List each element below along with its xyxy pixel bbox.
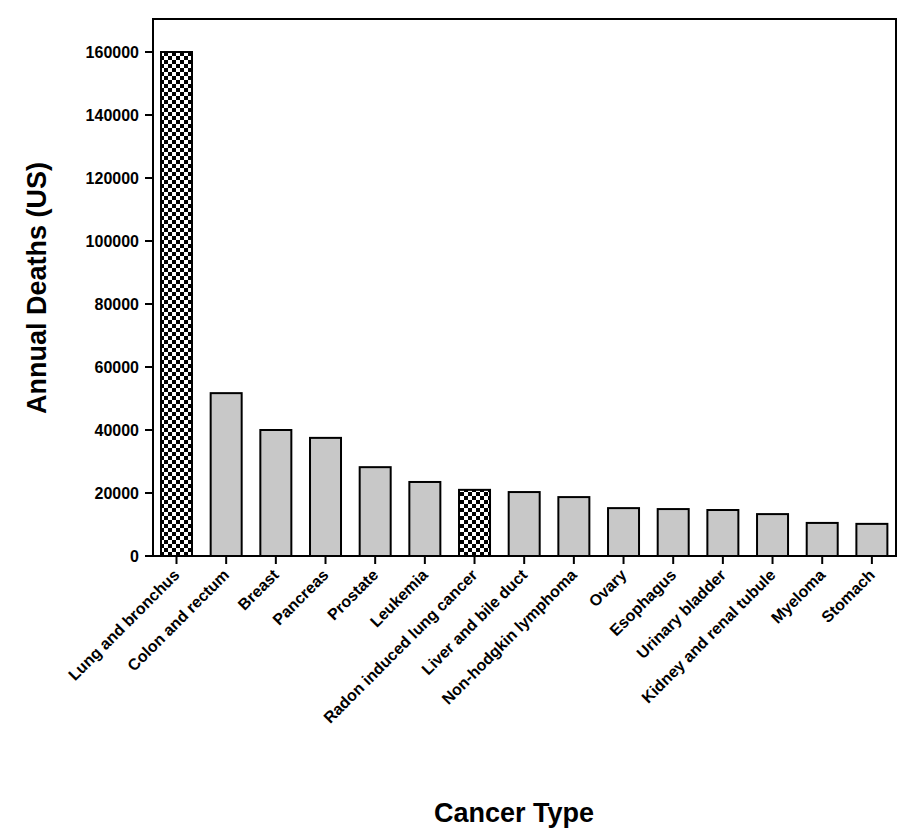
bar-leukemia [409, 482, 440, 556]
bar-prostate [360, 467, 391, 556]
bar-non-hodgkin-lymphoma [558, 497, 589, 556]
bar-pancreas [310, 438, 341, 556]
bar-myeloma [807, 523, 838, 556]
bar-lung-and-bronchus [161, 52, 192, 556]
x-category-label: Ovary [586, 566, 630, 610]
y-tick-label: 140000 [86, 107, 139, 124]
y-tick-label: 100000 [86, 233, 139, 250]
y-tick-label: 160000 [86, 44, 139, 61]
bar-liver-and-bile-duct [509, 492, 540, 556]
bar-radon-induced-lung-cancer [459, 490, 490, 556]
bar-urinary-bladder [707, 510, 738, 556]
x-axis-title: Cancer Type [434, 798, 594, 828]
bar-esophagus [658, 509, 689, 556]
y-axis-title: Annual Deaths (US) [22, 162, 52, 414]
bars [161, 52, 887, 556]
x-category-label: Breast [235, 566, 283, 614]
y-tick-label: 80000 [95, 296, 140, 313]
y-tick-label: 120000 [86, 170, 139, 187]
bar-ovary [608, 508, 639, 556]
bar-breast [260, 430, 291, 556]
x-category-label: Urinary bladder [633, 566, 729, 662]
x-category-label: Myeloma [768, 566, 829, 627]
y-tick-label: 40000 [95, 422, 140, 439]
bar-colon-and-rectum [211, 393, 242, 556]
y-axis: 0200004000060000800001000001200001400001… [86, 44, 153, 565]
x-category-label: Stomach [818, 566, 878, 626]
bar-kidney-and-renal-tubule [757, 514, 788, 556]
y-tick-label: 60000 [95, 359, 140, 376]
x-axis: Lung and bronchusColon and rectumBreastP… [65, 556, 878, 726]
bar-chart: 0200004000060000800001000001200001400001… [0, 0, 909, 838]
y-tick-label: 0 [130, 548, 139, 565]
bar-stomach [856, 524, 887, 556]
y-tick-label: 20000 [95, 485, 140, 502]
